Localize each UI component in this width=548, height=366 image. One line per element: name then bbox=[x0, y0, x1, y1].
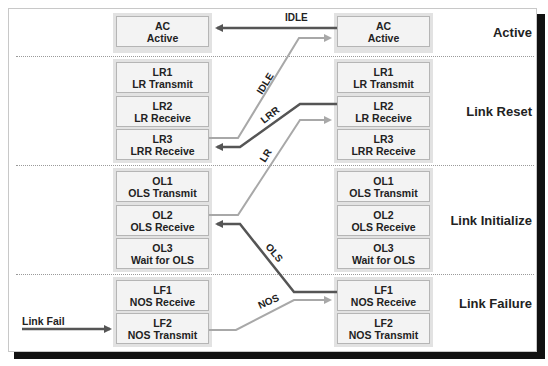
arrow-label-lrr: LRR bbox=[258, 104, 282, 126]
arrow-lr-to-right-lr2: LR bbox=[209, 120, 330, 215]
arrow-idle-to-left-ac: IDLE bbox=[217, 12, 337, 28]
arrow-label-ols: OLS bbox=[263, 241, 285, 264]
arrow-idle-to-right-ac: IDLE bbox=[209, 38, 330, 138]
arrow-lrr-to-left-lr3: LRR bbox=[217, 104, 337, 147]
arrow-label-idle-diag: IDLE bbox=[254, 71, 276, 96]
transition-arrows: IDLE IDLE LRR LR OLS NOS bbox=[0, 0, 548, 366]
arrow-nos-to-right-lf1: NOS bbox=[209, 292, 330, 330]
arrow-ols-to-left-ol2: OLS bbox=[217, 224, 337, 292]
arrow-label-lr: LR bbox=[257, 146, 274, 164]
link-fail-label: Link Fail bbox=[22, 315, 65, 327]
arrow-label-idle-top: IDLE bbox=[285, 12, 308, 23]
